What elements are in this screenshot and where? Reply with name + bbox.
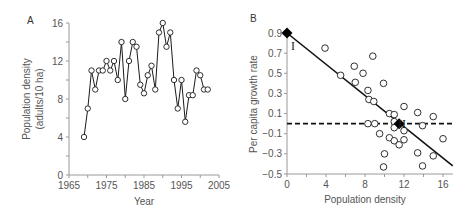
- y-tick-label: 16: [52, 18, 64, 29]
- data-point-marker: [141, 91, 146, 96]
- data-point-marker: [322, 45, 329, 52]
- data-point-marker: [365, 120, 372, 127]
- data-point-marker: [370, 53, 377, 60]
- panel-a-y-axis-title-line2: (adults/10 ha): [34, 68, 45, 129]
- data-point-marker: [153, 87, 158, 92]
- data-point-marker: [111, 58, 116, 63]
- y-tick-label: −0.5: [262, 169, 282, 180]
- panel-a-y-axis-title-line1: Population density: [21, 58, 32, 140]
- data-point-marker: [360, 70, 367, 77]
- y-tick-label: 0.5: [268, 68, 282, 79]
- data-point-marker: [168, 30, 173, 35]
- data-point-marker: [194, 68, 199, 73]
- data-point-marker: [401, 103, 408, 110]
- data-point-marker: [171, 77, 176, 82]
- data-point-marker: [430, 153, 437, 160]
- point-ii-label: II: [398, 117, 406, 131]
- data-point-marker: [164, 44, 169, 49]
- data-point-marker: [93, 87, 98, 92]
- data-point-marker: [190, 93, 195, 98]
- panel-b-y-tick-labels: 0.90.70.50.30.1−0.1−0.3−0.5: [262, 28, 282, 180]
- x-tick-label: 4: [323, 179, 329, 190]
- panel-a-x-axis-title: Year: [134, 196, 155, 207]
- panel-b-x-axis-title: Population density: [324, 194, 406, 205]
- figure: A 0481216 19651975198519952005 Year Popu…: [0, 0, 475, 215]
- y-tick-label: −0.1: [262, 128, 282, 139]
- data-point-marker: [371, 120, 378, 127]
- data-point-marker: [352, 79, 359, 86]
- x-tick-label: 8: [362, 179, 368, 190]
- data-point-marker: [370, 98, 377, 105]
- x-tick-label: 1985: [133, 180, 156, 191]
- data-point-marker: [391, 111, 398, 118]
- data-point-marker: [183, 119, 188, 124]
- x-tick-label: 1965: [58, 180, 81, 191]
- y-tick-label: 12: [52, 56, 64, 67]
- x-tick-label: 0: [284, 179, 290, 190]
- data-point-marker: [89, 68, 94, 73]
- data-point-marker: [130, 39, 135, 44]
- data-point-marker: [179, 77, 184, 82]
- y-tick-label: 0.7: [268, 48, 282, 59]
- data-point-marker: [123, 96, 128, 101]
- panel-b-y-axis-title: Per capita growth rate: [248, 55, 259, 153]
- data-point-marker: [337, 72, 344, 79]
- data-point-marker: [205, 87, 210, 92]
- data-point-marker: [81, 134, 86, 139]
- y-tick-label: −0.3: [262, 148, 282, 159]
- data-point-marker: [365, 87, 372, 94]
- data-point-marker: [145, 73, 150, 78]
- y-tick-label: 0.3: [268, 88, 282, 99]
- panel-a-y-tick-labels: 0481216: [52, 18, 64, 181]
- panel-b-x-tick-labels: 0481216: [284, 179, 449, 190]
- data-point-marker: [414, 109, 421, 116]
- data-point-marker: [414, 150, 421, 157]
- x-tick-label: 1975: [95, 180, 118, 191]
- data-point-marker: [108, 68, 113, 73]
- data-point-marker: [351, 63, 358, 70]
- data-point-marker: [175, 106, 180, 111]
- x-tick-label: 1995: [170, 180, 193, 191]
- y-tick-label: 8: [57, 94, 63, 105]
- y-tick-label: 0.9: [268, 28, 282, 39]
- data-point-marker: [376, 130, 383, 137]
- panel-a-label: A: [27, 15, 34, 26]
- panel-a-data-series: [81, 20, 210, 139]
- data-point-marker: [134, 44, 139, 49]
- panel-b-label: B: [250, 13, 257, 24]
- data-point-marker: [119, 39, 124, 44]
- panel-a-x-tick-labels: 19651975198519952005: [58, 180, 231, 191]
- y-tick-label: 0.1: [268, 108, 282, 119]
- data-point-marker: [198, 73, 203, 78]
- data-point-marker: [430, 113, 437, 120]
- data-point-marker: [126, 58, 131, 63]
- data-point-marker: [156, 30, 161, 35]
- data-point-marker: [380, 164, 387, 171]
- point-i-label: I: [291, 39, 295, 53]
- x-tick-label: 16: [437, 179, 449, 190]
- data-point-marker: [419, 122, 426, 129]
- panel-b-growth-rate-scatter: B 0.90.70.50.30.1−0.1−0.3−0.5 0481216 Po…: [248, 13, 453, 205]
- data-point-marker: [100, 68, 105, 73]
- data-point-marker: [138, 82, 143, 87]
- data-point-marker: [401, 136, 408, 143]
- panel-a-population-time-series: A 0481216 19651975198519952005 Year Popu…: [21, 15, 231, 207]
- data-point-marker: [115, 77, 120, 82]
- data-point-marker: [380, 80, 387, 87]
- data-point-marker: [85, 106, 90, 111]
- data-point-marker: [104, 58, 109, 63]
- data-point-marker: [160, 20, 165, 25]
- x-tick-label: 12: [398, 179, 410, 190]
- y-tick-label: 0: [57, 170, 63, 181]
- y-tick-label: 4: [57, 132, 63, 143]
- data-point-marker: [419, 163, 426, 170]
- data-point-marker: [440, 135, 447, 142]
- panel-b-data-points: [322, 45, 447, 170]
- data-point-marker: [149, 63, 154, 68]
- population-line: [84, 23, 208, 137]
- x-tick-label: 2005: [208, 180, 231, 191]
- data-point-marker: [381, 151, 388, 158]
